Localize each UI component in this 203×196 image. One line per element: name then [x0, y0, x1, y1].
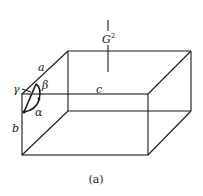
label-c: c [96, 83, 102, 96]
label-beta: β [41, 79, 48, 92]
unit-cell-diagram: G2 a γ β c α b (a) [0, 0, 203, 196]
label-gamma: γ [13, 83, 20, 96]
arc-dot [38, 98, 41, 101]
edge-depth-bottom-left [22, 111, 68, 155]
label-a: a [38, 61, 45, 74]
beta-arc [36, 84, 40, 100]
box-edges [22, 51, 191, 155]
edge-depth-bottom-right [148, 111, 191, 155]
edge-depth-top-right [148, 51, 191, 94]
figure-caption: (a) [88, 173, 103, 186]
front-face [22, 94, 148, 155]
arrow-tip [22, 110, 25, 113]
label-b: b [12, 122, 19, 135]
label-alpha: α [35, 106, 43, 119]
